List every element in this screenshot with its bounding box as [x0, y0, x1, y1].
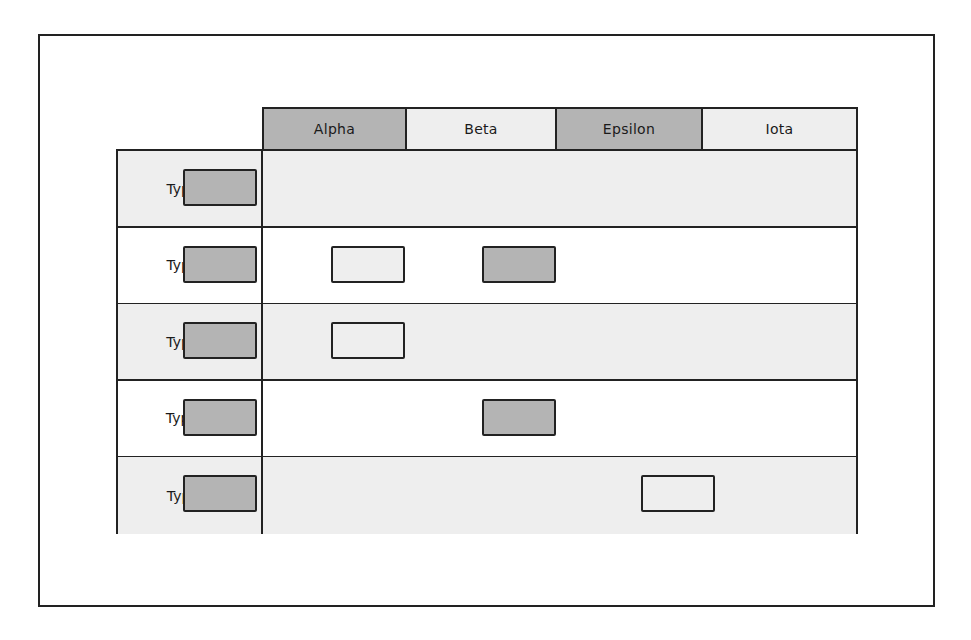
- matrix-row: Type A: [118, 151, 856, 228]
- cell-marker-beta: [331, 322, 405, 359]
- matrix-row: Type D: [118, 381, 856, 458]
- column-header-iota: Iota: [701, 107, 858, 151]
- cell-marker-alpha: [183, 399, 257, 436]
- cell-marker-epsilon: [482, 246, 556, 283]
- matrix-grid: Type AType BType CType DType E: [116, 149, 858, 534]
- matrix-row: Type B: [118, 228, 856, 305]
- cell-marker-alpha: [183, 246, 257, 283]
- matrix-row: Type E: [118, 457, 856, 534]
- cell-marker-iota: [641, 475, 715, 512]
- column-header-beta: Beta: [405, 107, 557, 151]
- cell-marker-epsilon: [482, 399, 556, 436]
- column-header-alpha: Alpha: [262, 107, 407, 151]
- cell-marker-alpha: [183, 475, 257, 512]
- cell-marker-alpha: [183, 322, 257, 359]
- cell-marker-beta: [331, 246, 405, 283]
- column-header-epsilon: Epsilon: [555, 107, 703, 151]
- cell-marker-alpha: [183, 169, 257, 206]
- matrix-row: Type C: [118, 304, 856, 381]
